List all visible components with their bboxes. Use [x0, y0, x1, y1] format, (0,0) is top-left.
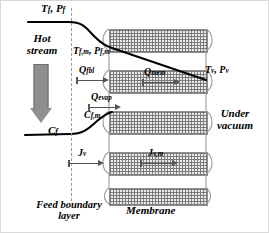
label-j-vm: Jv,m	[148, 148, 163, 159]
label-feed-membrane-sub2: f,m	[100, 48, 110, 56]
label-feed-membrane-sub: f,m	[79, 48, 89, 56]
under-vacuum-label: Under vacuum	[206, 108, 264, 132]
membrane-slab-1	[109, 29, 208, 53]
figure-canvas: Tf, Pf Tf,m, Pf,m Tv, Pv Cf Cf,m Qfbl Qm…	[0, 0, 269, 233]
j-v-arrow-icon	[68, 160, 104, 167]
label-conc-membrane: Cf,m	[84, 110, 100, 121]
label-vapor-sub2: v	[225, 67, 228, 75]
feed-boundary-dashed-line	[71, 8, 72, 201]
label-vapor: Tv, Pv	[205, 65, 229, 76]
membrane-label: Membrane	[126, 205, 176, 217]
label-conc-bulk: Cf	[48, 125, 58, 137]
q-fbl-arrow-icon	[76, 77, 109, 84]
label-q-evap: Qevap	[91, 92, 112, 103]
feed-boundary-line1: Feed boundary	[20, 199, 118, 210]
label-j-vm-sub: v,m	[153, 150, 163, 158]
hot-stream-line2: stream	[14, 45, 70, 57]
label-feed-bulk-sub2: f	[63, 5, 66, 14]
label-feed-membrane: Tf,m, Pf,m	[73, 46, 110, 57]
label-q-mem: Qmem	[144, 67, 166, 78]
label-q-mem-sub: mem	[151, 69, 165, 77]
label-conc-bulk-sub: f	[55, 127, 58, 136]
label-j-v: Jv	[78, 148, 86, 159]
label-feed-bulk: Tf, Pf	[41, 3, 65, 15]
under-vacuum-line2: vacuum	[206, 120, 264, 132]
membrane-label-text: Membrane	[126, 204, 176, 216]
label-conc-membrane-sub: f,m	[91, 112, 101, 120]
label-conc-membrane-text: C	[84, 109, 91, 120]
feed-boundary-layer-label: Feed boundary layer	[20, 199, 118, 222]
hot-stream-label: Hot stream	[14, 33, 70, 57]
label-j-v-sub: v	[83, 150, 86, 158]
j-vm-arrow-icon	[140, 160, 178, 167]
hot-stream-arrow-icon	[28, 64, 54, 128]
feed-boundary-line2: layer	[20, 210, 118, 221]
membrane-slab-3	[109, 111, 208, 135]
label-q-evap-sub: evap	[98, 94, 112, 102]
q-mem-arrow-icon	[142, 79, 180, 86]
label-feed-bulk-text: T	[41, 2, 48, 14]
label-q-fbl: Qfbl	[79, 65, 94, 76]
label-feed-bulk-text2: P	[56, 2, 63, 14]
label-q-fbl-sub: fbl	[86, 67, 94, 75]
